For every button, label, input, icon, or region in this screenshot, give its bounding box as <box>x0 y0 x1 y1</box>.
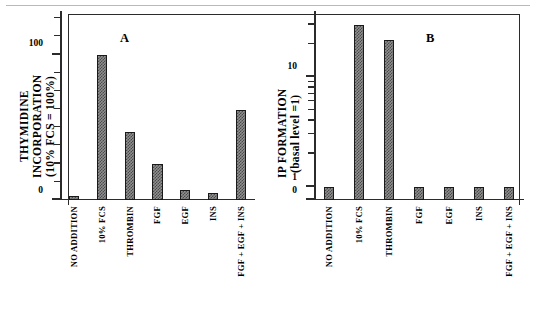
panel-b-bar-group: NO ADDITION10% FCSTHROMBINFGFEGFINSFGF +… <box>314 11 524 200</box>
x-axis-category-label: THROMBIN <box>384 206 394 257</box>
y-axis-major-tick: 0 <box>306 198 314 200</box>
y-axis-tick-label: 0 <box>292 185 297 195</box>
top-divider-rule <box>6 5 530 6</box>
y-axis-tick-label: 0 <box>38 185 43 195</box>
bar: FGF <box>152 164 162 200</box>
y-axis-tick-label: 10 <box>288 61 298 71</box>
x-axis-category-label: 10% FCS <box>97 206 107 243</box>
x-axis-category-label: NO ADDITION <box>324 206 334 267</box>
x-axis-category-label: THROMBIN <box>125 206 135 257</box>
bar: 10% FCS <box>354 25 365 200</box>
panel-b-plot-area: 0110 NO ADDITION10% FCSTHROMBINFGFEGFINS… <box>314 11 524 200</box>
bar: EGF <box>444 187 455 200</box>
bar: THROMBIN <box>384 40 395 201</box>
bar: EGF <box>180 190 190 200</box>
x-axis-category-label: NO ADDITION <box>69 206 79 267</box>
x-axis-category-label: INS <box>208 206 218 221</box>
panel-a-plot-area: 0100 NO ADDITION10% FCSTHROMBINFGFEGFINS… <box>60 11 255 200</box>
figure-container: THYMIDINE INCORPORATION (10% FCS = 100%)… <box>0 0 534 311</box>
x-axis-category-label: FGF + EGF + INS <box>504 206 514 277</box>
bar: FGF <box>414 187 425 200</box>
panel-b-y-axis-title: IP FORMATION (basal level =1) <box>276 76 304 191</box>
panel-b: IP FORMATION (basal level =1) B 0110 NO … <box>274 14 528 306</box>
y-axis-tick-label: 1 <box>292 172 297 182</box>
y-axis-major-tick: 100 <box>52 53 60 55</box>
x-axis-category-label: 10% FCS <box>354 206 364 243</box>
x-axis-category-label: EGF <box>444 206 454 224</box>
bar: INS <box>474 187 485 200</box>
panel-a-y-axis-title: THYMIDINE INCORPORATION (10% FCS = 100%) <box>18 44 48 209</box>
panel-a-bar-group: NO ADDITION10% FCSTHROMBINFGFEGFINSFGF +… <box>60 11 255 200</box>
bar: INS <box>208 193 218 200</box>
y-axis-major-tick: 10 <box>306 75 314 77</box>
y-axis-major-tick: 1 <box>306 185 314 187</box>
bar: NO ADDITION <box>69 196 79 200</box>
bar: FGF + EGF + INS <box>236 110 246 200</box>
bar: FGF + EGF + INS <box>504 187 515 200</box>
bar: THROMBIN <box>125 132 135 200</box>
y-axis-major-tick: 0 <box>52 198 60 200</box>
x-axis-category-label: FGF + EGF + INS <box>236 206 246 277</box>
x-axis-category-label: FGF <box>414 206 424 224</box>
x-axis-category-label: FGF <box>152 206 162 224</box>
bar: NO ADDITION <box>324 187 335 200</box>
panel-a: THYMIDINE INCORPORATION (10% FCS = 100%)… <box>8 14 270 306</box>
x-axis-category-label: EGF <box>180 206 190 224</box>
bar: 10% FCS <box>97 55 107 200</box>
y-axis-tick-label: 100 <box>29 38 43 48</box>
x-axis-category-label: INS <box>474 206 484 221</box>
